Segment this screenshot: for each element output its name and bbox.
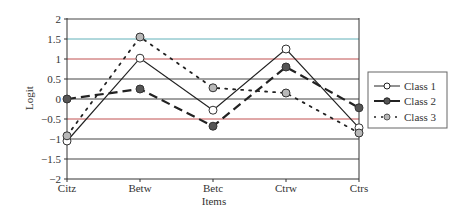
data-point-marker [63, 132, 71, 140]
x-tick-label: Ctrw [275, 182, 297, 194]
data-point-marker [282, 45, 290, 53]
x-axis-ticks: CitzBetwBetcCtrwCtrs [58, 179, 368, 194]
x-tick-label: Ctrs [350, 182, 368, 194]
legend: Class 1 Class 2 Class 3 [368, 72, 447, 128]
x-tick-label: Betw [128, 182, 151, 194]
y-axis-title: Logit [23, 86, 35, 110]
legend-label: Class 2 [404, 95, 436, 107]
data-point-marker [63, 95, 71, 103]
data-point-marker [136, 85, 144, 93]
data-point-marker [209, 84, 217, 92]
line-chart: 21.510.50−0.5−1−1.5−2 CitzBetwBetcCtrwCt… [0, 0, 467, 219]
y-tick-label: 1.5 [47, 33, 61, 45]
filled-circle-marker-icon [384, 98, 390, 104]
y-tick-label: 2 [56, 13, 62, 25]
y-tick-label: 1 [56, 53, 62, 65]
data-point-marker [355, 104, 363, 112]
y-tick-label: −1.5 [41, 153, 61, 165]
legend-label: Class 3 [404, 111, 437, 123]
gray-circle-marker-icon [384, 114, 390, 120]
y-tick-label: −1 [49, 133, 61, 145]
y-tick-label: 0 [56, 93, 62, 105]
x-tick-label: Betc [203, 182, 223, 194]
legend-label: Class 1 [404, 80, 436, 92]
data-series [63, 33, 363, 145]
data-point-marker [209, 122, 217, 130]
y-tick-label: −0.5 [41, 113, 61, 125]
x-axis-title: Items [202, 195, 226, 207]
x-tick-label: Citz [58, 182, 76, 194]
data-point-marker [282, 63, 290, 71]
open-circle-marker-icon [384, 83, 390, 89]
data-point-marker [136, 54, 144, 62]
data-point-marker [136, 33, 144, 41]
data-point-marker [355, 129, 363, 137]
data-point-marker [209, 106, 217, 114]
y-tick-label: 0.5 [47, 73, 61, 85]
data-point-marker [282, 89, 290, 97]
